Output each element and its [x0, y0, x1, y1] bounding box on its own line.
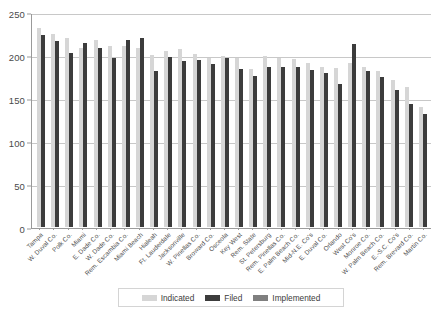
bar-filed [98, 48, 102, 227]
bar-filed [182, 61, 186, 227]
x-axis-tick-mark [224, 228, 225, 230]
x-axis-tick-mark [96, 228, 97, 230]
bar-filed [253, 76, 257, 227]
bar-filed [69, 53, 73, 227]
bar-filed [197, 60, 201, 227]
bar-group [359, 14, 373, 227]
bar-group [260, 14, 274, 227]
x-axis-tick-mark [124, 228, 125, 230]
y-axis-tick-label: 250 [9, 9, 25, 20]
bar-group [133, 14, 147, 227]
bar-filed [296, 67, 300, 227]
bar-filed [324, 73, 328, 227]
bar-group [289, 14, 303, 227]
bar-group [232, 14, 246, 227]
bar-group [105, 14, 119, 227]
bar-group [91, 14, 105, 227]
legend-entry: Filed [205, 293, 242, 303]
bar-filed [338, 84, 342, 227]
x-axis-tick-mark [295, 228, 296, 230]
legend-swatch [205, 295, 220, 301]
bar-group [317, 14, 331, 227]
bar-group [274, 14, 288, 227]
bar-group [48, 14, 62, 227]
bar-filed [140, 38, 144, 227]
x-axis-label-slot: Martin Co. [416, 230, 430, 288]
x-axis-tick-mark [53, 228, 54, 230]
bar-filed [366, 71, 370, 227]
bar-filed [281, 67, 285, 227]
x-axis: TampaW. Duval Co.Polk Co.MiamiE. Dade Co… [31, 230, 431, 288]
legend-label: Implemented [272, 293, 320, 303]
bar-group [373, 14, 387, 227]
bars-layer [33, 14, 431, 227]
bar-group [175, 14, 189, 227]
bar-group [246, 14, 260, 227]
x-axis-tick-mark [409, 228, 410, 230]
x-axis-tick-mark [110, 228, 111, 230]
bar-filed [83, 43, 87, 227]
x-axis-tick-mark [338, 228, 339, 230]
x-axis-tick-mark [153, 228, 154, 230]
bar-filed [41, 35, 45, 227]
bar-group [402, 14, 416, 227]
x-axis-tick-mark [82, 228, 83, 230]
chart-legend: IndicatedFiledImplemented [118, 288, 344, 307]
legend-entry: Implemented [253, 293, 320, 303]
x-axis-tick-mark [309, 228, 310, 230]
bar-filed [423, 114, 427, 227]
legend-label: Filed [224, 293, 242, 303]
bar-filed [211, 64, 215, 227]
y-axis-tick-label: 100 [9, 138, 25, 149]
bar-filed [168, 57, 172, 227]
bar-group [161, 14, 175, 227]
y-axis-tick-label: 0 [20, 224, 25, 235]
legend-swatch [253, 295, 268, 301]
y-axis: 050100150200250 [0, 14, 31, 229]
bar-filed [154, 71, 158, 227]
x-axis-label-slot: W. Duval Co. [46, 230, 60, 288]
bar-filed [310, 70, 314, 227]
x-axis-tick-mark [167, 228, 168, 230]
bar-filed [126, 40, 130, 227]
x-axis-tick-mark [380, 228, 381, 230]
bar-filed [352, 44, 356, 227]
x-axis-tick-mark [423, 228, 424, 230]
y-axis-tick-label: 50 [14, 181, 25, 192]
bar-group [388, 14, 402, 227]
x-axis-tick-mark [39, 228, 40, 230]
bar-filed [55, 41, 59, 227]
x-axis-tick-mark [252, 228, 253, 230]
bar-group [218, 14, 232, 227]
plot-area [31, 14, 431, 229]
bar-filed [225, 58, 229, 227]
bar-group [331, 14, 345, 227]
bar-group [204, 14, 218, 227]
x-axis-tick-mark [395, 228, 396, 230]
bar-group [190, 14, 204, 227]
x-axis-tick-mark [181, 228, 182, 230]
y-axis-tick-label: 200 [9, 52, 25, 63]
x-axis-tick-mark [366, 228, 367, 230]
bar-group [147, 14, 161, 227]
x-axis-tick-mark [238, 228, 239, 230]
y-axis-tick-label: 150 [9, 95, 25, 106]
x-axis-tick-mark [210, 228, 211, 230]
bar-group [76, 14, 90, 227]
x-axis-tick-mark [323, 228, 324, 230]
bar-group [345, 14, 359, 227]
legend-label: Indicated [161, 293, 195, 303]
bar-filed [395, 90, 399, 227]
bar-chart-figure: 050100150200250 TampaW. Duval Co.Polk Co… [0, 0, 437, 327]
bar-filed [380, 77, 384, 227]
bar-filed [409, 104, 413, 227]
bar-filed [239, 69, 243, 227]
bar-filed [267, 67, 271, 227]
bar-group [62, 14, 76, 227]
x-axis-tick-mark [352, 228, 353, 230]
x-axis-tick-mark [281, 228, 282, 230]
bar-group [119, 14, 133, 227]
bar-filed [112, 58, 116, 227]
legend-entry: Indicated [142, 293, 195, 303]
bar-group [34, 14, 48, 227]
